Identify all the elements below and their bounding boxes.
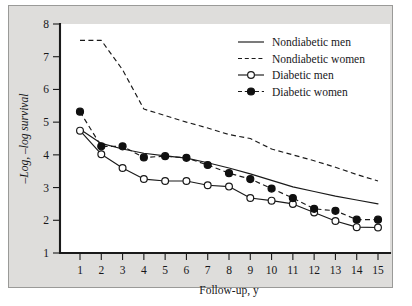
data-point [183, 178, 190, 185]
data-point [289, 195, 296, 202]
y-axis-ticks: 12345678 [43, 18, 60, 259]
data-point [353, 216, 360, 223]
legend-label: Nondiabetic men [272, 36, 351, 48]
y-tick-label: 7 [43, 51, 49, 63]
data-point [268, 185, 275, 192]
data-point [226, 183, 233, 190]
x-tick-label: 8 [226, 264, 232, 276]
x-tick-label: 7 [205, 264, 211, 276]
data-point [77, 108, 84, 115]
x-tick-label: 14 [351, 264, 363, 276]
data-point [353, 224, 360, 231]
data-point [332, 207, 339, 214]
legend-marker [248, 88, 255, 95]
x-tick-label: 12 [308, 264, 320, 276]
y-tick-label: 6 [43, 83, 49, 95]
x-tick-label: 13 [330, 264, 342, 276]
x-tick-label: 10 [266, 264, 278, 276]
data-point [119, 143, 126, 150]
data-point [98, 143, 105, 150]
data-point [226, 170, 233, 177]
data-point [332, 218, 339, 225]
data-point [140, 154, 147, 161]
x-tick-label: 11 [287, 264, 298, 276]
figure-container: 12345678123456789101112131415Follow-up, … [0, 0, 412, 306]
x-tick-label: 9 [247, 264, 253, 276]
data-point [204, 182, 211, 189]
data-point [140, 176, 147, 183]
survival-chart: 12345678123456789101112131415Follow-up, … [0, 0, 412, 306]
x-axis-ticks: 123456789101112131415 [77, 253, 384, 276]
data-point [268, 197, 275, 204]
y-tick-label: 2 [43, 214, 49, 226]
legend-marker [248, 72, 255, 79]
x-tick-label: 2 [98, 264, 104, 276]
data-point [98, 151, 105, 158]
y-tick-label: 8 [43, 18, 49, 30]
data-point [247, 195, 254, 202]
legend-label: Diabetic women [272, 86, 348, 98]
x-tick-label: 15 [372, 264, 384, 276]
x-tick-label: 5 [162, 264, 168, 276]
legend-label: Nondiabetic women [272, 53, 365, 65]
y-tick-label: 4 [43, 149, 49, 161]
y-tick-label: 5 [43, 116, 49, 128]
y-tick-label: 3 [43, 182, 49, 194]
data-point [375, 224, 382, 231]
data-point [119, 165, 126, 172]
x-tick-label: 6 [184, 264, 190, 276]
x-axis-title: Follow-up, y [199, 284, 259, 297]
y-axis-title: –Log, –log survival [18, 94, 31, 185]
data-point [375, 216, 382, 223]
data-point [204, 162, 211, 169]
data-point [183, 154, 190, 161]
data-point [311, 205, 318, 212]
data-point [162, 178, 169, 185]
data-point [162, 153, 169, 160]
y-tick-label: 1 [43, 247, 49, 259]
x-tick-label: 4 [141, 264, 147, 276]
x-tick-label: 3 [120, 264, 126, 276]
data-point [247, 176, 254, 183]
legend-label: Diabetic men [272, 69, 334, 81]
data-point [77, 127, 84, 134]
x-tick-label: 1 [77, 264, 83, 276]
